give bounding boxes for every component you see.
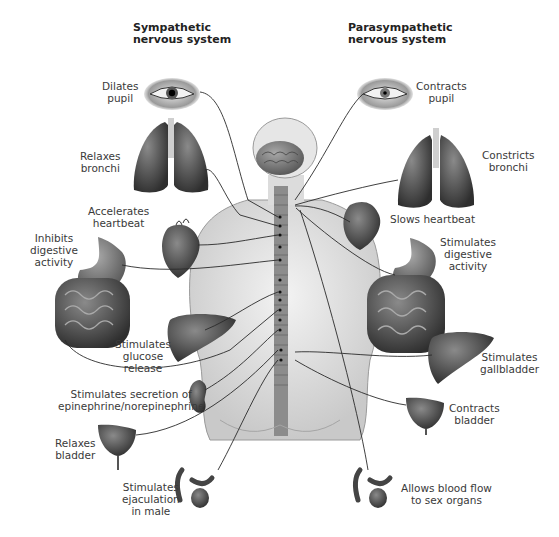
label-contracts-pupil: Contracts pupil [416, 80, 467, 104]
label-stimulates-glucose-release: Stimulates glucose release [115, 338, 171, 374]
label-relaxes-bladder: Relaxes bladder [55, 437, 95, 461]
label-contracts-bladder: Contracts bladder [449, 402, 500, 426]
label-stimulates-ejaculation: Stimulates ejaculation in male [122, 481, 180, 517]
parasympathetic-title: Parasympathetic nervous system [348, 22, 453, 46]
stomach-intestines-right-icon [367, 238, 445, 353]
bladder-left-icon [98, 425, 136, 470]
autonomic-nervous-system-diagram: Sympathetic nervous system Parasympathet… [0, 0, 559, 537]
genitals-left-icon [177, 470, 212, 508]
label-dilates-pupil: Dilates pupil [102, 80, 138, 104]
label-stimulates-gallbladder: Stimulates gallbladder [480, 351, 539, 375]
genitals-right-icon [355, 470, 390, 508]
label-slows-heartbeat: Slows heartbeat [390, 213, 475, 225]
label-inhibits-digestive-activity: Inhibits digestive activity [30, 232, 78, 268]
label-stimulates-digestive-activity: Stimulates digestive activity [440, 236, 496, 272]
eye-left-icon [144, 78, 200, 110]
lungs-right-icon [398, 128, 474, 208]
label-stimulates-epinephrine: Stimulates secretion of epinephrine/nore… [58, 388, 204, 412]
label-relaxes-bronchi: Relaxes bronchi [80, 150, 120, 174]
sympathetic-title: Sympathetic nervous system [133, 22, 231, 46]
label-allows-blood-flow: Allows blood flow to sex organs [401, 482, 492, 506]
lungs-left-icon [134, 118, 208, 192]
eye-right-icon [357, 78, 413, 110]
label-accelerates-heartbeat: Accelerates heartbeat [88, 205, 149, 229]
bladder-right-icon [406, 398, 444, 435]
label-constricts-bronchi: Constricts bronchi [482, 149, 535, 173]
